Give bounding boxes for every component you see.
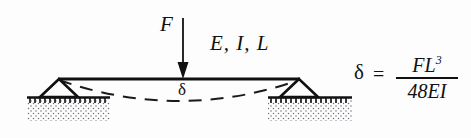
force-label: F [160,14,173,35]
deflection-formula: FL3 48EI [396,54,458,102]
load-arrow-icon [178,18,189,79]
fraction-bar [396,77,458,79]
support-right [280,79,318,97]
equals-sign: = [373,64,384,84]
equation-lhs-delta: δ [354,62,364,83]
ground-right [268,98,352,122]
numerator-exponent: 3 [436,53,442,67]
support-left [40,79,78,97]
deflection-label: δ [178,81,186,98]
numerator-text: FL [412,54,435,76]
beam-deflection-figure: F E, I, L δ δ = FL3 48EI [0,0,471,138]
beam-properties-label: E, I, L [210,33,270,54]
formula-numerator: FL3 [396,54,458,76]
ground-left [27,98,110,122]
formula-denominator: 48EI [396,80,458,102]
